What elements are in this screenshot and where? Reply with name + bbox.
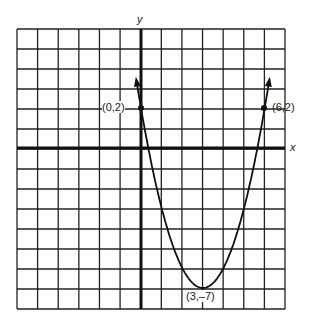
vertex-label: (3,–7)	[186, 290, 215, 302]
grid	[17, 29, 285, 309]
point-label-0-2: (0,2)	[102, 101, 125, 113]
parabola-graph	[0, 0, 311, 316]
point-0-2	[138, 105, 144, 111]
point-6-2	[261, 105, 267, 111]
arrow-right-icon	[265, 77, 272, 87]
x-axis-label: x	[290, 141, 296, 153]
point-label-6-2: (6,2)	[272, 101, 295, 113]
y-axis-label: y	[137, 13, 143, 25]
